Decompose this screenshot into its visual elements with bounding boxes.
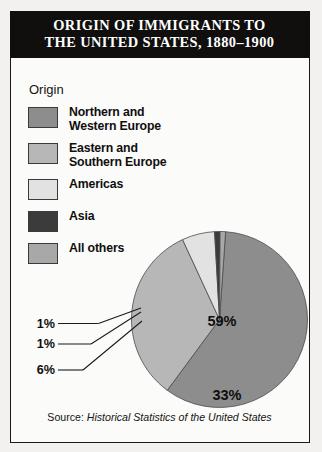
chart-body: Origin Northern and Western Europe Easte… [11,59,308,442]
legend-item-all-others: All others [28,242,193,265]
legend-item-asia: Asia [28,210,193,233]
leader-line-asia-b [99,308,142,324]
leader-line-americas-b [83,321,142,370]
legend-item-northern-western-europe: Northern and Western Europe [28,106,193,133]
legend-label-americas: Americas [69,178,123,192]
legend-item-americas: Americas [28,178,193,201]
legend-label-asia: Asia [69,210,94,224]
legend-swatch-americas [28,179,58,200]
chart-figure: ORIGIN OF IMMIGRANTS TO THE UNITED STATE… [10,11,310,443]
pie-label-eastern-southern-europe: 33% [212,387,241,403]
pie-slice [220,232,226,320]
pie-label-americas: 6% [37,363,55,377]
source-note: Source: Historical Statistics of the Uni… [11,411,308,423]
legend-label-line-1: Eastern and [69,141,138,155]
legend-swatch-eastern-southern-europe [28,143,58,164]
pie-value-labels: 59% 33% 1% 1% 6% [37,313,242,403]
legend-label-line-1: Northern and [69,105,144,119]
source-title: Historical Statistics of the United Stat… [87,411,272,423]
title-line-1: ORIGIN OF IMMIGRANTS TO [14,17,306,34]
page-title: ORIGIN OF IMMIGRANTS TO THE UNITED STATE… [10,11,310,58]
title-line-2: THE UNITED STATES, 1880–1900 [14,34,306,51]
legend-label-northern-western-europe: Northern and Western Europe [69,106,161,133]
chart-legend: Origin Northern and Western Europe Easte… [28,82,193,274]
source-prefix: Source: [47,411,84,423]
legend-swatch-asia [28,211,58,232]
legend-label-eastern-southern-europe: Eastern and Southern Europe [69,142,167,169]
pie-label-asia: 1% [37,317,55,331]
legend-label-line-2: Southern Europe [69,156,167,170]
legend-heading: Origin [29,82,193,97]
pie-label-northern-western-europe: 59% [207,313,236,329]
legend-label-all-others: All others [69,242,124,256]
pie-leader-lines [58,308,142,370]
legend-swatch-all-others [28,243,58,264]
pie-slice [215,231,221,319]
pie-label-all-others: 1% [37,337,55,351]
legend-item-eastern-southern-europe: Eastern and Southern Europe [28,142,193,169]
legend-label-line-2: Western Europe [69,120,161,134]
leader-line-all-others-b [91,312,141,344]
legend-swatch-northern-western-europe [28,107,58,128]
